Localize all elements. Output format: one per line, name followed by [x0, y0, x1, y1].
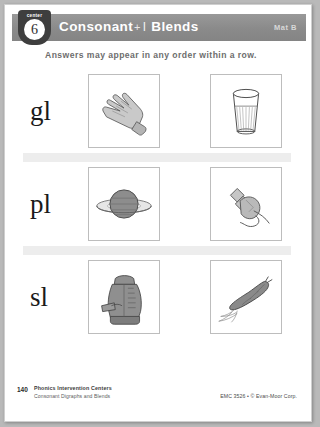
glass-picture: [210, 74, 282, 148]
blend-row: gl: [5, 69, 311, 153]
letter-l: l: [142, 20, 147, 34]
rows-container: gl: [5, 69, 311, 339]
sleeping-bag-picture: [88, 260, 160, 334]
planet-picture: [88, 167, 160, 241]
blend-row: pl: [5, 162, 311, 246]
plus-symbol: +: [133, 21, 142, 33]
page-footer: 140 Phonics Intervention Centers Consona…: [5, 385, 311, 409]
slug-picture: [210, 260, 282, 334]
badge-word: center: [18, 13, 51, 18]
glove-picture: [88, 74, 160, 148]
header-band: Consonant+l Blends Mat B: [12, 14, 306, 41]
blend-label: sl: [30, 284, 48, 311]
page-title-tail: Blends: [151, 19, 198, 34]
footer-titles: Phonics Intervention Centers Consonant D…: [34, 385, 112, 401]
page-title: Consonant+l Blends: [59, 19, 199, 34]
badge-number: 6: [24, 19, 45, 40]
worksheet-page: Consonant+l Blends Mat B center 6 Answer…: [4, 4, 312, 422]
footer-copyright: EMC 3526 • © Evan-Moor Corp.: [220, 393, 297, 399]
row-separator: [23, 246, 291, 255]
footer-book-subtitle: Consonant Digraphs and Blends: [34, 393, 112, 401]
directions-text: Answers may appear in any order within a…: [45, 50, 257, 60]
blend-label: gl: [30, 98, 51, 125]
footer-book-title: Phonics Intervention Centers: [34, 385, 112, 393]
blend-row: sl: [5, 255, 311, 339]
mat-label: Mat B: [274, 23, 297, 32]
plug-picture: [210, 167, 282, 241]
center-badge: center 6: [18, 10, 51, 45]
row-separator: [23, 153, 291, 162]
page-title-main: Consonant: [59, 19, 133, 34]
footer-page-number: 140: [17, 386, 28, 393]
blend-label: pl: [30, 191, 51, 218]
